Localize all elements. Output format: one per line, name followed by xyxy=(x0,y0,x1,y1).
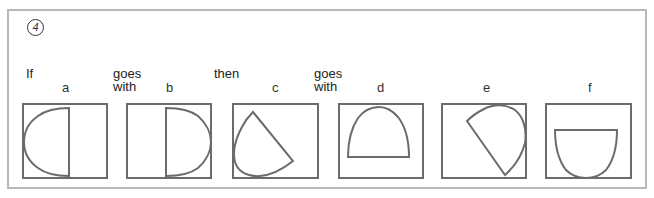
half-ellipse-up-icon xyxy=(348,107,409,157)
half-ellipse-left-icon xyxy=(24,108,69,176)
half-ellipse-rotated-e-icon xyxy=(467,105,526,175)
half-ellipse-right-icon xyxy=(166,108,211,176)
shapes-layer xyxy=(0,0,654,198)
half-ellipse-rotated-c-icon xyxy=(234,112,293,176)
half-ellipse-down-icon xyxy=(555,130,617,178)
